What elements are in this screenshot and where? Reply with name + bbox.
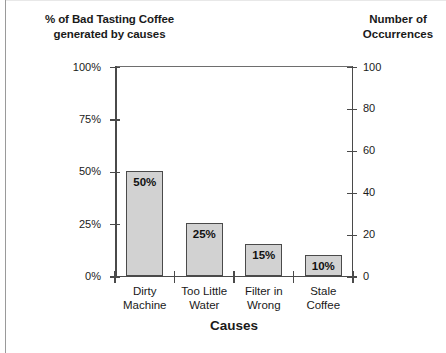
page-border-top (5, 0, 446, 1)
y2-tick-label-100: 100 (363, 61, 403, 73)
y2-tick-label-80: 80 (363, 102, 403, 114)
bar-dirty-machine: 50% (126, 171, 163, 276)
y2-tick-label-20: 20 (363, 228, 403, 240)
x-axis-title: Causes (115, 318, 353, 333)
plot-area: 0%25%50%75%100% 020406080100 50%25%15%10… (115, 66, 353, 277)
y-tick-75% (110, 119, 120, 120)
y2-tick-80 (347, 109, 357, 110)
left-axis-title-line2: generated by causes (22, 27, 197, 42)
y-tick-25% (110, 224, 120, 225)
left-axis-title: % of Bad Tasting Coffee generated by cau… (22, 12, 197, 42)
x-tick-2 (233, 271, 234, 283)
y2-tick-40 (347, 193, 357, 194)
left-axis-title-line1: % of Bad Tasting Coffee (22, 12, 197, 27)
x-tick-1 (174, 271, 175, 283)
y-tick-label-75%: 75% (41, 113, 101, 125)
category-label-line: Too Little (175, 284, 235, 298)
y2-tick-20 (347, 235, 357, 236)
category-label-line: Water (175, 298, 235, 312)
y-tick-100% (110, 67, 120, 68)
x-tick-4 (352, 271, 353, 283)
x-tick-3 (293, 271, 294, 283)
y-tick-label-50%: 50% (41, 165, 101, 177)
category-label-line: Stale (294, 284, 354, 298)
category-label-too-little-water: Too LittleWater (175, 284, 235, 312)
axis-right-line (352, 66, 354, 277)
y-tick-label-100%: 100% (41, 61, 101, 73)
y2-tick-60 (347, 151, 357, 152)
bar-too-little-water: 25% (186, 223, 223, 275)
bar-stale-coffee: 10% (305, 255, 342, 276)
y-tick-label-25%: 25% (41, 218, 101, 230)
right-axis-title: Number of Occurrences (355, 12, 441, 42)
category-label-line: Filter in (234, 284, 294, 298)
category-label-line: Dirty (115, 284, 175, 298)
bar-filter-in-wrong: 15% (245, 244, 282, 275)
bar-value-label: 50% (127, 176, 162, 188)
right-axis-title-line1: Number of (355, 12, 441, 27)
x-tick-0 (114, 271, 115, 283)
y2-tick-label-0: 0 (363, 270, 403, 282)
category-label-stale-coffee: StaleCoffee (294, 284, 354, 312)
y2-tick-100 (347, 67, 357, 68)
category-label-dirty-machine: DirtyMachine (115, 284, 175, 312)
y-tick-label-0%: 0% (41, 270, 101, 282)
category-label-line: Machine (115, 298, 175, 312)
category-label-line: Wrong (234, 298, 294, 312)
bar-value-label: 15% (246, 249, 281, 261)
category-label-line: Coffee (294, 298, 354, 312)
page-border-left (5, 0, 6, 353)
right-axis-title-line2: Occurrences (355, 27, 441, 42)
y-tick-50% (110, 172, 120, 173)
bar-value-label: 25% (187, 228, 222, 240)
y2-tick-label-40: 40 (363, 186, 403, 198)
category-label-filter-in-wrong: Filter inWrong (234, 284, 294, 312)
y2-tick-label-60: 60 (363, 144, 403, 156)
bar-value-label: 10% (306, 260, 341, 272)
axis-top-line (115, 66, 353, 67)
